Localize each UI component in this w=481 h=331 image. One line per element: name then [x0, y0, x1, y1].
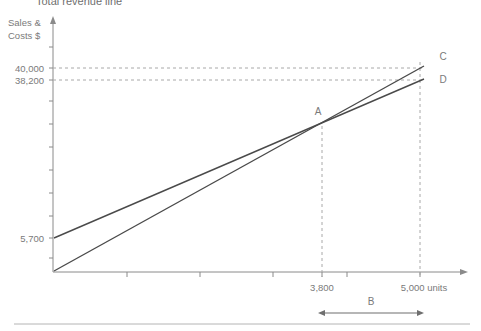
y-axis-label-line1: Sales &	[8, 17, 41, 28]
y-tick-label-40000: 40,000	[15, 63, 44, 74]
break-even-chart: Total revenue line Sales & Costs $	[0, 0, 481, 331]
chart-title: Total revenue line	[36, 0, 122, 7]
x-axis-arrowhead	[460, 269, 468, 275]
y-axis-label-line2: Costs $	[8, 30, 41, 41]
y-axis-arrowhead	[50, 16, 56, 24]
span-arrowhead-right	[417, 310, 424, 316]
x-tick-label-3800: 3,800	[310, 282, 334, 293]
x-tick-label-5000-units: 5,000 units	[401, 282, 448, 293]
point-label-d: D	[439, 74, 446, 85]
y-tick-label-5700: 5,700	[20, 233, 44, 244]
span-label-b: B	[368, 296, 375, 307]
point-label-c: C	[439, 51, 446, 62]
x-axis-ticks	[127, 272, 420, 277]
total-revenue-line	[54, 66, 424, 271]
span-arrowhead-left	[318, 310, 325, 316]
total-costs-line	[54, 79, 424, 238]
y-tick-label-38200: 38,200	[15, 75, 44, 86]
chart-page: Total revenue line Sales & Costs $	[0, 0, 481, 331]
y-axis-ticks	[49, 47, 53, 258]
point-label-a: A	[315, 106, 322, 117]
